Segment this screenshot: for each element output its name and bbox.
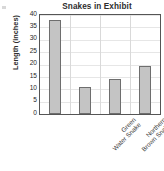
- corner-artifact-mark: [2, 6, 6, 9]
- x-axis-tick-labels: GreenWater SnakeNorthernBrown SnakeSouth…: [39, 116, 161, 171]
- y-tick-label: 15: [23, 73, 37, 80]
- y-tick-label: 25: [23, 48, 37, 55]
- y-tick-label: 30: [23, 35, 37, 42]
- y-tick-label: 5: [23, 97, 37, 104]
- bar: [109, 79, 121, 114]
- y-tick-label: 35: [23, 23, 37, 30]
- bar: [49, 20, 61, 114]
- category-divider: [100, 15, 101, 114]
- y-tick-label: 10: [23, 85, 37, 92]
- category-divider: [130, 15, 131, 114]
- y-tick-label: 40: [23, 11, 37, 18]
- y-tick-label: 0: [23, 110, 37, 117]
- y-axis-tick-labels: 0510152025303540: [20, 14, 37, 115]
- chart-title: Snakes in Exhibit: [30, 2, 164, 11]
- category-divider: [70, 15, 71, 114]
- bar-chart-figure: Snakes in Exhibit Length (inches) 051015…: [0, 0, 164, 171]
- plot-area: [39, 14, 161, 115]
- y-axis-title: Length (inches): [11, 6, 20, 80]
- bar: [139, 66, 151, 114]
- y-tick-label: 20: [23, 60, 37, 67]
- bar: [79, 87, 91, 114]
